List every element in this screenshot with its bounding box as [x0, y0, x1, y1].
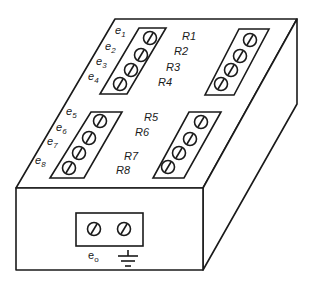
label-r1: R1 — [182, 30, 196, 42]
screw-terminal-r4[interactable] — [215, 78, 228, 91]
screw-terminal-r3[interactable] — [225, 64, 238, 77]
screw-terminal-e7[interactable] — [73, 147, 86, 160]
screw-terminal-e8[interactable] — [63, 162, 76, 175]
label-r6: R6 — [135, 126, 150, 138]
screw-terminal-r6[interactable] — [184, 133, 197, 146]
screw-terminal-r5[interactable] — [195, 116, 208, 129]
summing-box-diagram: e1 e2 e3 e4 e5 e6 e7 e8 R1 R2 R3 R4 R5 R… — [0, 0, 315, 286]
label-r5: R5 — [144, 111, 159, 123]
label-r8: R8 — [116, 164, 131, 176]
screw-terminal-ground[interactable] — [118, 223, 131, 236]
screw-terminal-r8[interactable] — [162, 161, 175, 174]
screw-terminal-e3[interactable] — [125, 64, 138, 77]
screw-terminal-r1[interactable] — [244, 34, 257, 47]
label-r7: R7 — [124, 150, 139, 162]
screw-terminal-e5[interactable] — [94, 115, 107, 128]
label-r4: R4 — [158, 76, 172, 88]
screw-terminal-e6[interactable] — [83, 132, 96, 145]
label-r2: R2 — [174, 45, 188, 57]
screw-terminal-r7[interactable] — [173, 147, 186, 160]
screw-terminal-output[interactable] — [88, 223, 101, 236]
screw-terminal-r2[interactable] — [234, 50, 247, 63]
screw-terminal-e4[interactable] — [114, 78, 127, 91]
label-r3: R3 — [166, 61, 181, 73]
screw-terminal-e1[interactable] — [144, 32, 157, 45]
screw-terminal-e2[interactable] — [135, 49, 148, 62]
